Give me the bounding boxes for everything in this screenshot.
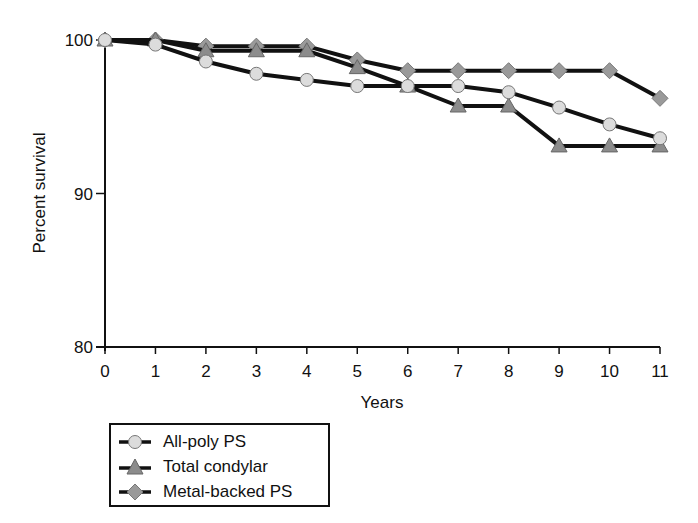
y-axis-title: Percent survival: [30, 133, 49, 254]
x-tick-label: 3: [252, 362, 261, 381]
circle-marker-icon: [199, 55, 212, 68]
legend-item-all-poly-ps: All-poly PS: [119, 429, 328, 454]
x-tick-label: 1: [151, 362, 160, 381]
diamond-marker-icon: [652, 90, 668, 106]
circle-marker-icon: [553, 101, 566, 114]
x-tick-label: 2: [201, 362, 210, 381]
circle-marker-icon: [351, 80, 364, 93]
x-tick-label: 9: [554, 362, 563, 381]
x-tick-label: 10: [600, 362, 619, 381]
x-tick-label: 11: [651, 362, 669, 381]
diamond-marker-icon: [501, 63, 517, 79]
survival-chart: 8090100 01234567891011 Percent survival …: [0, 0, 698, 523]
circle-marker-icon: [250, 67, 263, 80]
x-tick-label: 8: [504, 362, 513, 381]
x-axis: 01234567891011: [96, 347, 669, 381]
x-tick-label: 5: [353, 362, 362, 381]
diamond-marker-icon: [119, 482, 151, 502]
y-tick-label: 90: [74, 185, 93, 204]
circle-marker-icon: [300, 73, 313, 86]
y-tick-label: 100: [65, 31, 93, 50]
series-total-condylar: [97, 32, 668, 152]
x-axis-title: Years: [361, 393, 404, 412]
legend-item-metal-backed-ps: Metal-backed PS: [119, 479, 328, 504]
diamond-marker-icon: [450, 63, 466, 79]
series-metal-backed-ps: [97, 32, 668, 106]
x-tick-label: 0: [100, 362, 109, 381]
legend-label: All-poly PS: [163, 432, 246, 452]
circle-marker-icon: [502, 86, 515, 99]
triangle-marker-icon: [119, 457, 151, 477]
legend: All-poly PS Total condylar Metal-backed …: [109, 423, 330, 507]
x-tick-label: 4: [302, 362, 311, 381]
circle-marker-icon: [99, 34, 112, 47]
legend-item-total-condylar: Total condylar: [119, 454, 328, 479]
circle-marker-icon: [452, 80, 465, 93]
y-tick-label: 80: [74, 338, 93, 357]
diamond-marker-icon: [551, 63, 567, 79]
x-tick-label: 7: [453, 362, 462, 381]
legend-label: Metal-backed PS: [163, 482, 292, 502]
circle-marker-icon: [401, 80, 414, 93]
circle-marker-icon: [149, 38, 162, 51]
x-tick-label: 6: [403, 362, 412, 381]
series-all-poly-ps: [99, 34, 667, 145]
series-layer: [97, 32, 668, 152]
y-axis: 8090100: [65, 31, 105, 357]
circle-marker-icon: [603, 118, 616, 131]
diamond-marker-icon: [400, 63, 416, 79]
diamond-marker-icon: [602, 63, 618, 79]
circle-marker-icon: [119, 432, 151, 452]
circle-marker-icon: [654, 132, 667, 145]
legend-label: Total condylar: [163, 457, 268, 477]
